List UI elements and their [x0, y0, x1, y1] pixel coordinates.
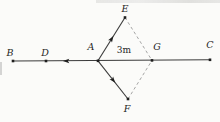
point-A	[97, 60, 100, 63]
segment-BC	[13, 60, 210, 61]
label-E: E	[121, 3, 129, 14]
point-G	[151, 59, 154, 62]
arrowhead-AE	[108, 35, 115, 43]
point-D	[45, 60, 48, 63]
label-G: G	[153, 41, 161, 52]
label-B: B	[6, 47, 14, 58]
distance-label: 3m	[117, 45, 132, 55]
point-E	[124, 16, 127, 19]
point-C	[209, 59, 212, 62]
label-D: D	[40, 47, 49, 58]
segment-FG	[128, 60, 152, 99]
label-C: C	[206, 39, 214, 50]
point-B	[12, 60, 15, 63]
label-A: A	[87, 41, 95, 52]
diagram-svg: BDAGCEF3m	[0, 0, 220, 122]
point-F	[127, 98, 130, 101]
geometry-figure: BDAGCEF3m	[0, 0, 220, 122]
label-F: F	[123, 103, 131, 114]
